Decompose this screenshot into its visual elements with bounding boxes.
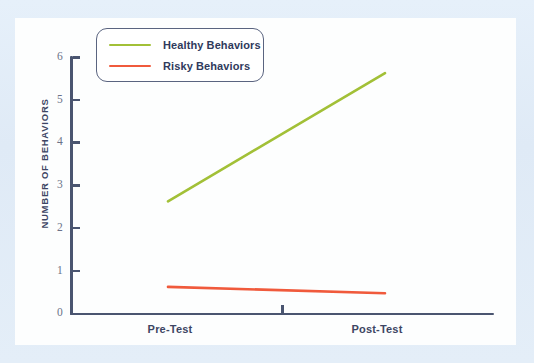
legend-label-healthy: Healthy Behaviors: [163, 39, 261, 51]
x-tick-label-pre-test: Pre-Test: [110, 323, 230, 335]
legend-item-healthy-behaviors: Healthy Behaviors: [109, 37, 261, 53]
legend-item-risky-behaviors: Risky Behaviors: [109, 58, 250, 74]
legend-swatch-healthy-icon: [109, 44, 151, 47]
legend-swatch-risky-icon: [109, 65, 151, 68]
figure-root: NUMBER OF BEHAVIORS 6 5 4 3 2 1 0: [0, 0, 534, 363]
legend-label-risky: Risky Behaviors: [163, 60, 250, 72]
line-healthy-behaviors: [168, 73, 385, 201]
x-tick-label-post-test: Post-Test: [317, 323, 437, 335]
line-risky-behaviors: [168, 287, 385, 293]
plot-area: [15, 18, 516, 345]
chart-card: NUMBER OF BEHAVIORS 6 5 4 3 2 1 0: [15, 18, 516, 345]
chart-legend: Healthy Behaviors Risky Behaviors: [96, 28, 264, 82]
